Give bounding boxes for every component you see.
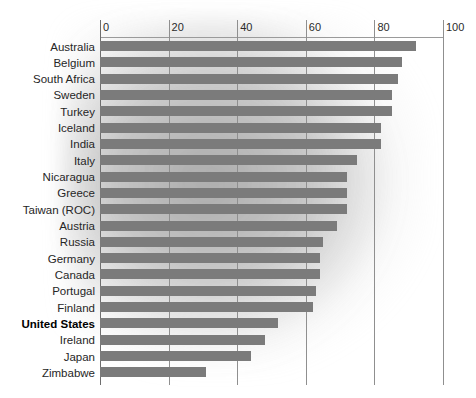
bar (100, 123, 381, 133)
bar (100, 204, 347, 214)
category-label: Russia (3, 236, 95, 248)
bar (100, 90, 392, 100)
category-label: Taiwan (ROC) (3, 204, 95, 216)
category-label: United States (3, 318, 95, 330)
category-label: South Africa (3, 73, 95, 85)
category-label: Sweden (3, 89, 95, 101)
category-label: Belgium (3, 57, 95, 69)
x-tick-label: 80 (377, 21, 389, 33)
bar (100, 351, 251, 361)
category-label: Canada (3, 269, 95, 281)
category-label: Nicaragua (3, 171, 95, 183)
x-tick-label: 0 (103, 21, 109, 33)
category-label: Japan (3, 351, 95, 363)
top-axis-rule (100, 37, 444, 38)
bar (100, 302, 313, 312)
category-label: India (3, 138, 95, 150)
category-label: Austria (3, 220, 95, 232)
bar (100, 57, 402, 67)
gridline-100 (443, 20, 444, 385)
bar (100, 286, 316, 296)
bar (100, 237, 323, 247)
category-axis: AustraliaBelgiumSouth AfricaSwedenTurkey… (0, 0, 95, 398)
category-label: Australia (3, 41, 95, 53)
x-tick-label: 40 (240, 21, 252, 33)
bar (100, 269, 320, 279)
x-tick-label: 20 (172, 21, 184, 33)
bar (100, 74, 398, 84)
bar (100, 106, 392, 116)
category-label: Iceland (3, 122, 95, 134)
bar (100, 172, 347, 182)
category-label: Greece (3, 187, 95, 199)
x-tick-label: 60 (309, 21, 321, 33)
bar (100, 335, 265, 345)
category-label: Portugal (3, 285, 95, 297)
bar (100, 221, 337, 231)
bar (100, 367, 206, 377)
category-label: Italy (3, 155, 95, 167)
bar (100, 318, 278, 328)
category-label: Zimbabwe (3, 367, 95, 379)
x-tick-label: 100 (446, 21, 464, 33)
bar-chart: 020406080100 AustraliaBelgiumSouth Afric… (0, 0, 476, 398)
category-label: Ireland (3, 334, 95, 346)
bar (100, 155, 357, 165)
category-label: Germany (3, 253, 95, 265)
bar (100, 139, 381, 149)
category-label: Finland (3, 302, 95, 314)
bar (100, 253, 320, 263)
category-label: Turkey (3, 106, 95, 118)
bar (100, 41, 416, 51)
bar (100, 188, 347, 198)
